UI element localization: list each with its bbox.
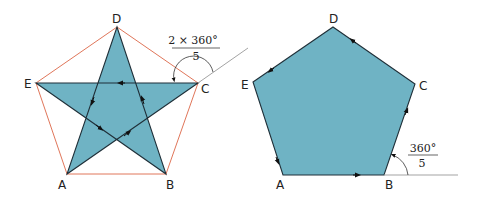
vertex-label-e-left: E — [24, 77, 32, 91]
vertex-label-c-right: C — [419, 79, 427, 93]
vertex-label-b-left: B — [166, 178, 174, 192]
angle-denominator-right: 5 — [419, 157, 426, 170]
vertex-label-d-right: D — [329, 12, 338, 26]
vertex-label-a-right: A — [276, 178, 285, 192]
pentagon-shape — [253, 27, 415, 175]
vertex-label-d-left: D — [112, 12, 121, 26]
diagram-canvas: D E C A B 2 × 360° 5 D E C A B 360° 5 — [0, 0, 477, 201]
vertex-label-a-left: A — [58, 178, 67, 192]
angle-denominator-left: 5 — [193, 50, 200, 63]
vertex-label-e-right: E — [241, 78, 249, 92]
angle-numerator-left: 2 × 360° — [168, 34, 218, 47]
vertex-label-c-left: C — [201, 82, 209, 96]
angle-arc-b — [393, 155, 408, 175]
angle-numerator-right: 360° — [410, 142, 437, 155]
vertex-label-b-right: B — [385, 178, 393, 192]
